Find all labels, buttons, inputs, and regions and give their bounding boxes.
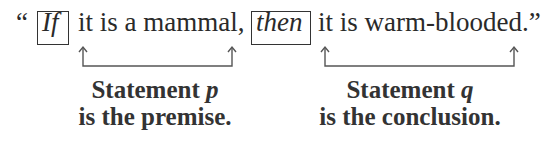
premise-label: Statement p is the premise. bbox=[55, 76, 255, 130]
conclusion-bracket-arrow bbox=[321, 47, 518, 66]
premise-label-prefix: Statement bbox=[91, 76, 206, 103]
conclusion-label-line2: is the conclusion. bbox=[300, 103, 520, 130]
premise-bracket-arrow bbox=[79, 47, 236, 66]
variable-q: q bbox=[461, 76, 474, 103]
conclusion-label-prefix: Statement bbox=[346, 76, 461, 103]
premise-label-line2: is the premise. bbox=[55, 103, 255, 130]
variable-p: p bbox=[206, 76, 219, 103]
conclusion-label: Statement q is the conclusion. bbox=[300, 76, 520, 130]
